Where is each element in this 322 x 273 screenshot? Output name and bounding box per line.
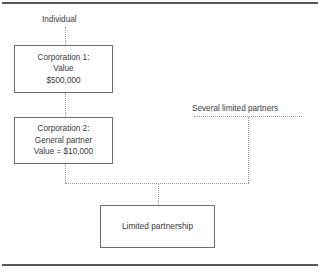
- top-divider: [2, 2, 318, 4]
- node-corporation-1: Corporation 1: Value $500,000: [14, 45, 113, 93]
- diagram-canvas: Individual Corporation 1: Value $500,000…: [0, 0, 322, 273]
- connector-corporation-1-to-corporation-2: [65, 93, 66, 117]
- connector-corporation-2-to-bus: [65, 164, 66, 183]
- corporation-1-line-1: Corporation 1:: [38, 52, 90, 64]
- node-limited-partnership: Limited partnership: [100, 205, 215, 248]
- connector-individual-to-corporation-1: [65, 27, 66, 45]
- bottom-divider: [2, 264, 318, 266]
- corporation-2-line-1: Corporation 2:: [38, 123, 90, 135]
- limited-partnership-line-1: Limited partnership: [122, 221, 193, 233]
- label-individual: Individual: [42, 15, 77, 25]
- corporation-2-line-3: Value = $10,000: [34, 146, 93, 158]
- corporation-1-line-3: $500,000: [46, 75, 80, 87]
- corporation-1-line-2: Value: [53, 63, 73, 75]
- label-several-limited-partners: Several limited partners: [192, 104, 278, 114]
- connector-bus-to-limited-partnership: [158, 183, 159, 205]
- connector-horizontal-bus: [65, 183, 249, 184]
- corporation-2-line-2: General partner: [35, 135, 92, 147]
- connector-several-limited-partners-to-bus: [248, 117, 249, 183]
- node-corporation-2: Corporation 2: General partner Value = $…: [14, 117, 113, 164]
